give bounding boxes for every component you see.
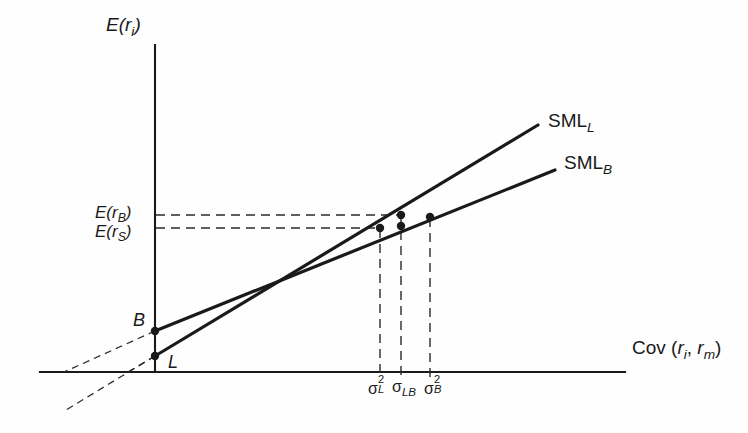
intercept-point-b (151, 327, 159, 335)
sigma-l-sq-sym: σ (368, 380, 378, 397)
sml-b-sub: B (603, 162, 612, 177)
sigma-b-sq-sym: σ (424, 380, 434, 397)
sigma-lb-sub: LB (402, 386, 416, 398)
sml-l-line (155, 125, 538, 356)
x-tick-label-sigma-lb: σLB (392, 378, 416, 398)
x-tick-label-sigma-l-sq: σL2 (368, 378, 388, 398)
erb-suffix: ) (126, 203, 132, 222)
point-label-b: B (133, 310, 145, 331)
data-point-intersection-sigma-lb (397, 211, 405, 219)
sigma-b-sq-scripts: B2 (434, 378, 444, 394)
point-label-l: L (168, 352, 178, 373)
x-axis-title-sub2: m (704, 347, 715, 362)
sml-l-sub: L (587, 120, 595, 135)
data-point-sml-b-at-sigma-b-sq (426, 213, 434, 221)
sigma-l-sq-sup: 2 (378, 373, 384, 385)
line-label-sml-b: SMLB (564, 152, 612, 177)
x-tick-label-sigma-b-sq: σB2 (424, 378, 444, 398)
sigma-l-sq-scripts: L2 (378, 378, 388, 394)
ers-sub: S (118, 230, 126, 244)
sigma-lb-sym: σ (392, 378, 402, 395)
data-point-sml-l-at-sigma-l-sq (376, 224, 384, 232)
x-axis-title-prefix: Cov ( (632, 337, 677, 358)
x-axis-title: Cov (ri, rm) (632, 337, 721, 362)
x-axis-title-suffix: ) (715, 337, 721, 358)
sigma-b-sq-sup: 2 (434, 373, 440, 385)
y-value-label-ers: E(rS) (95, 222, 132, 244)
y-axis-title-prefix: E( (106, 14, 125, 35)
sml-b-text: SML (564, 152, 603, 173)
ers-suffix: ) (126, 222, 132, 241)
erb-prefix: E( (95, 203, 112, 222)
ers-prefix: E( (95, 222, 112, 241)
sml-l-text: SML (548, 110, 587, 131)
intercept-point-l (151, 352, 159, 360)
y-axis-title: E(ri) (106, 14, 141, 39)
data-point-sml-b-at-sigma-lb (397, 222, 405, 230)
x-axis-title-sep: , (687, 337, 698, 358)
sml-l-dashed-extension-lower (128, 356, 155, 372)
line-label-sml-l: SMLL (548, 110, 595, 135)
sml-b-dashed-extension (64, 331, 155, 372)
sml-b-line (155, 170, 555, 331)
y-axis-title-suffix: ) (134, 14, 140, 35)
